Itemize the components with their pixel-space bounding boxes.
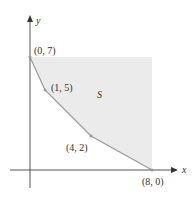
point-label-1-5: (1, 5) [51,82,73,94]
y-axis-arrow-icon [27,15,33,22]
point-8-0 [151,169,154,172]
point-4-2 [90,135,93,138]
point-label-8-0: (8, 0) [142,176,164,188]
point-1-5 [44,89,47,92]
region-s [30,57,152,170]
y-axis-label: y [35,15,41,26]
x-axis-label: x [181,164,187,175]
region-label: S [97,89,102,100]
point-label-0-7: (0, 7) [34,45,56,57]
point-0-7 [29,56,32,59]
diagram-canvas: y x (0, 7) (1, 5) (4, 2) (8, 0) S [0,0,194,204]
x-axis-arrow-icon [171,167,178,173]
point-label-4-2: (4, 2) [66,142,88,154]
